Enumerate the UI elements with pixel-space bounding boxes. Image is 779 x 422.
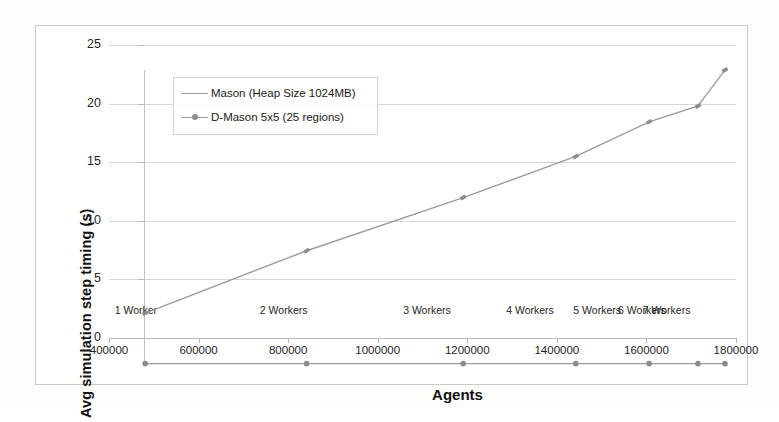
x-tick-mark bbox=[646, 338, 647, 343]
x-tick-label: 1400000 bbox=[512, 344, 602, 356]
gridline bbox=[109, 338, 736, 339]
y-tick-label: 0 bbox=[61, 330, 101, 344]
y-tick-mark bbox=[139, 279, 144, 280]
y-tick-mark bbox=[139, 104, 144, 105]
data-point-marker bbox=[460, 195, 467, 201]
worker-annotation-label: 2 Workers bbox=[244, 304, 324, 316]
y-tick-label: 5 bbox=[61, 271, 101, 285]
legend-marker-icon bbox=[182, 113, 208, 122]
worker-annotation-label: 7 Workers bbox=[627, 304, 707, 316]
gridline bbox=[109, 162, 736, 163]
y-tick-label: 15 bbox=[61, 154, 101, 168]
data-point-marker bbox=[722, 361, 728, 367]
legend-item-mason: Mason (Heap Size 1024MB) bbox=[182, 87, 355, 99]
x-tick-label: 800000 bbox=[243, 344, 333, 356]
data-point-marker bbox=[460, 361, 466, 367]
y-tick-label: 25 bbox=[61, 37, 101, 51]
worker-annotation-label: 3 Workers bbox=[387, 304, 467, 316]
x-tick-mark bbox=[736, 338, 737, 343]
legend-label-dmason: D-Mason 5x5 (25 regions) bbox=[211, 111, 344, 123]
data-point-marker bbox=[646, 119, 653, 125]
data-point-marker bbox=[646, 361, 652, 367]
x-axis-label: Agents bbox=[144, 386, 771, 403]
y-tick-mark bbox=[139, 162, 144, 163]
x-tick-label: 1000000 bbox=[333, 344, 423, 356]
chart-legend: Mason (Heap Size 1024MB) D-Mason 5x5 (25… bbox=[173, 77, 378, 135]
gridline bbox=[109, 221, 736, 222]
x-tick-label: 600000 bbox=[154, 344, 244, 356]
x-tick-mark bbox=[557, 338, 558, 343]
data-point-marker bbox=[304, 361, 310, 367]
x-tick-label: 1600000 bbox=[601, 344, 691, 356]
legend-label-mason: Mason (Heap Size 1024MB) bbox=[211, 87, 355, 99]
y-tick-mark bbox=[139, 221, 144, 222]
x-tick-mark bbox=[288, 338, 289, 343]
data-point-marker bbox=[303, 248, 310, 254]
y-axis-line bbox=[144, 70, 145, 364]
data-point-marker bbox=[572, 153, 579, 159]
data-point-marker bbox=[573, 361, 579, 367]
x-tick-label: 1200000 bbox=[422, 344, 512, 356]
y-tick-label: 10 bbox=[61, 213, 101, 227]
gridline bbox=[109, 45, 736, 46]
x-tick-mark bbox=[199, 338, 200, 343]
x-tick-label: 400000 bbox=[64, 344, 154, 356]
chart-frame: Avg simulation step timing (s) Agents 05… bbox=[35, 25, 748, 385]
worker-annotation-label: 1 Worker bbox=[96, 304, 176, 316]
x-tick-label: 1800000 bbox=[691, 344, 779, 356]
data-point-marker bbox=[695, 361, 701, 367]
y-tick-mark bbox=[139, 338, 144, 339]
x-tick-mark bbox=[109, 338, 110, 343]
legend-marker-icon bbox=[182, 89, 208, 98]
gridline bbox=[109, 279, 736, 280]
x-tick-mark bbox=[378, 338, 379, 343]
y-tick-label: 20 bbox=[61, 96, 101, 110]
series-plot bbox=[36, 26, 779, 422]
y-tick-mark bbox=[139, 45, 144, 46]
x-tick-mark bbox=[467, 338, 468, 343]
data-point-marker bbox=[722, 67, 729, 73]
legend-item-dmason: D-Mason 5x5 (25 regions) bbox=[182, 111, 344, 123]
